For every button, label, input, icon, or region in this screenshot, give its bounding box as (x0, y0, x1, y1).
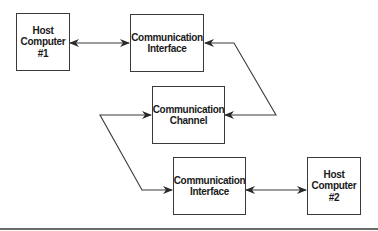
communication-interface-2-box: Communication Interface (173, 157, 246, 215)
node-label-line: Interface (148, 43, 187, 55)
communication-interface-1-box: Communication Interface (130, 14, 204, 72)
node-label-line: Computer (312, 180, 357, 192)
host-computer-2-box: Host Computer #2 (307, 157, 361, 215)
node-label-line: Host (32, 25, 53, 37)
communication-channel-box: Communication Channel (152, 86, 225, 144)
node-label-line: Interface (190, 186, 229, 198)
bottom-divider (0, 228, 378, 230)
node-label-line: #2 (329, 192, 340, 204)
node-label-line: Communication (153, 104, 225, 116)
node-label-line: Host (323, 169, 344, 181)
host-computer-1-box: Host Computer #1 (16, 13, 70, 71)
node-label-line: Channel (170, 115, 207, 127)
node-label-line: #1 (38, 48, 49, 60)
node-label-line: Communication (131, 32, 203, 44)
node-label-line: Computer (21, 36, 66, 48)
node-label-line: Communication (174, 175, 246, 187)
